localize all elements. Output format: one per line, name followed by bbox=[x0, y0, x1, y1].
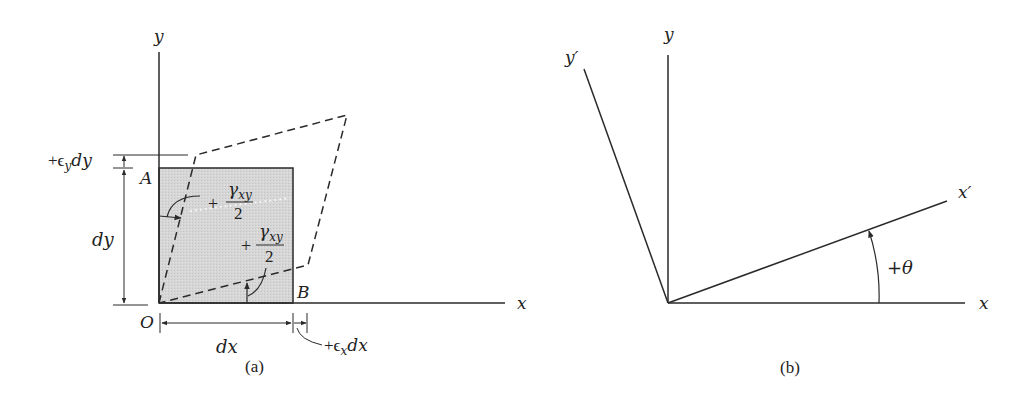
x-prime-axis bbox=[668, 201, 947, 303]
strain-transformation-figure: y x A B O dy dx +ϵydy +ϵxdx + γxy 2 + γx… bbox=[0, 0, 1029, 401]
caption-a: (a) bbox=[245, 357, 264, 376]
y-axis-label-a: y bbox=[153, 26, 164, 46]
strain-y-label: +ϵydy bbox=[48, 150, 92, 173]
svg-text:2: 2 bbox=[234, 204, 243, 223]
theta-arc bbox=[869, 231, 879, 303]
svg-text:2: 2 bbox=[265, 247, 274, 266]
dim-dy-label: dy bbox=[92, 229, 115, 250]
svg-text:+: + bbox=[208, 194, 218, 214]
y-axis-label-b: y bbox=[663, 24, 674, 44]
strain-x-label: +ϵxdx bbox=[324, 335, 368, 358]
x-axis-label-a: x bbox=[517, 293, 527, 313]
y-prime-axis bbox=[584, 69, 668, 303]
x-prime-axis-label: x′ bbox=[958, 182, 972, 202]
panel-a: y x A B O dy dx +ϵydy +ϵxdx + γxy 2 + γx… bbox=[48, 26, 527, 376]
point-O-label: O bbox=[140, 312, 154, 332]
eps-x-leader bbox=[297, 328, 322, 345]
x-axis-label-b: x bbox=[979, 293, 989, 313]
point-A-label: A bbox=[138, 168, 152, 188]
panel-b: y x x′ y′ +θ (b) bbox=[564, 24, 989, 377]
y-prime-axis-label: y′ bbox=[564, 47, 579, 67]
dim-dx-label: dx bbox=[216, 336, 238, 357]
theta-label: +θ bbox=[887, 257, 913, 278]
point-B-label: B bbox=[296, 282, 310, 302]
svg-text:+: + bbox=[241, 236, 251, 256]
caption-b: (b) bbox=[780, 358, 800, 377]
